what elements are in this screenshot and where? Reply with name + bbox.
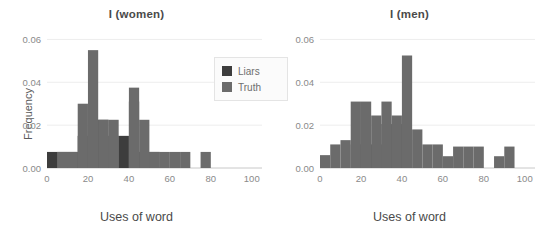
men-xtick-label: 0 bbox=[317, 173, 322, 184]
legend: Liars Truth bbox=[214, 57, 288, 101]
women-xtick-label: 60 bbox=[165, 173, 176, 184]
panel-men: I (men) 0.000.020.040.06020406080100 Use… bbox=[273, 0, 546, 228]
men-bar bbox=[504, 147, 514, 168]
women-bar bbox=[119, 136, 129, 168]
women-xtick-label: 0 bbox=[44, 173, 49, 184]
men-bar bbox=[402, 56, 412, 169]
women-bar bbox=[78, 104, 88, 168]
panel-women: I (women) Frequency 0.000.020.040.060204… bbox=[0, 0, 273, 228]
women-bar bbox=[149, 152, 159, 168]
women-bar bbox=[160, 152, 170, 168]
x-axis-label-men: Uses of word bbox=[273, 210, 546, 224]
men-bar bbox=[340, 140, 350, 168]
men-bar bbox=[433, 144, 443, 168]
men-bar bbox=[443, 156, 453, 168]
men-bar bbox=[422, 144, 432, 168]
plot-area-men: 0.000.020.040.06020406080100 bbox=[273, 0, 546, 228]
men-xtick-label: 20 bbox=[356, 173, 367, 184]
men-bar bbox=[330, 144, 340, 168]
figure-container: I (women) Frequency 0.000.020.040.060204… bbox=[0, 0, 546, 228]
x-axis-label-women: Uses of word bbox=[0, 210, 273, 224]
women-bar bbox=[180, 152, 190, 168]
plot-area-women: 0.000.020.040.06020406080100 bbox=[0, 0, 273, 228]
women-bar bbox=[129, 88, 139, 168]
men-ytick-label: 0.00 bbox=[296, 163, 315, 174]
women-series-truth bbox=[57, 50, 211, 168]
women-bar bbox=[67, 152, 77, 168]
men-ytick-label: 0.04 bbox=[296, 77, 315, 88]
women-xtick-label: 40 bbox=[124, 173, 135, 184]
men-series-truth bbox=[320, 56, 515, 169]
legend-swatch-liars bbox=[222, 66, 232, 76]
women-bar bbox=[108, 120, 118, 168]
women-bar bbox=[88, 50, 98, 168]
women-ytick-label: 0.06 bbox=[23, 34, 42, 45]
women-ytick-label: 0.00 bbox=[23, 163, 42, 174]
men-ytick-label: 0.02 bbox=[296, 120, 315, 131]
women-xtick-label: 80 bbox=[206, 173, 217, 184]
men-bar bbox=[351, 102, 361, 168]
men-bar bbox=[320, 155, 330, 168]
men-bar bbox=[463, 147, 473, 168]
men-ytick-label: 0.06 bbox=[296, 34, 315, 45]
men-xtick-label: 40 bbox=[397, 173, 408, 184]
women-xtick-label: 20 bbox=[83, 173, 94, 184]
men-xtick-label: 80 bbox=[479, 173, 490, 184]
women-bar bbox=[98, 120, 108, 168]
women-bar bbox=[201, 152, 211, 168]
men-xtick-label: 60 bbox=[438, 173, 449, 184]
men-xtick-label: 100 bbox=[517, 173, 533, 184]
women-bar bbox=[139, 120, 149, 168]
men-bar bbox=[474, 147, 484, 168]
legend-label-truth: Truth bbox=[238, 82, 261, 93]
women-xtick-label: 100 bbox=[244, 173, 260, 184]
women-ytick-label: 0.04 bbox=[23, 77, 42, 88]
women-ytick-label: 0.02 bbox=[23, 120, 42, 131]
women-bar bbox=[57, 152, 67, 168]
men-bar bbox=[361, 102, 371, 168]
legend-item-truth[interactable]: Truth bbox=[222, 79, 280, 95]
men-bar bbox=[453, 147, 463, 168]
men-bar bbox=[412, 129, 422, 168]
men-bar bbox=[381, 102, 391, 168]
women-bar bbox=[170, 152, 180, 168]
men-bar bbox=[371, 116, 381, 169]
legend-item-liars[interactable]: Liars bbox=[222, 63, 280, 79]
women-bar bbox=[47, 152, 57, 168]
men-bar bbox=[494, 156, 504, 168]
men-bar bbox=[392, 116, 402, 169]
legend-label-liars: Liars bbox=[238, 66, 260, 77]
legend-swatch-truth bbox=[222, 82, 232, 92]
